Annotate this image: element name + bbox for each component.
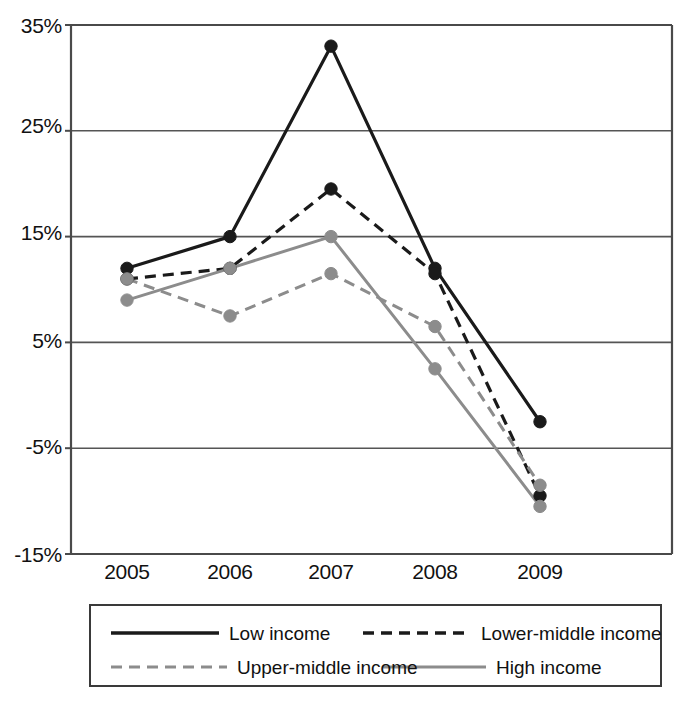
data-point-high-income-2009: [534, 500, 546, 512]
plot-area: [0, 0, 686, 600]
legend-label-high-income: High income: [496, 657, 602, 679]
data-point-low-income-2009: [534, 416, 546, 428]
data-point-upper-middle-income-2007: [325, 267, 337, 279]
data-point-high-income-2006: [224, 262, 236, 274]
data-point-high-income-2005: [121, 294, 133, 306]
data-point-high-income-2007: [325, 230, 337, 242]
data-point-upper-middle-income-2005: [121, 273, 133, 285]
legend-label-lower-middle-income: Lower-middle income: [481, 623, 662, 645]
data-point-lower-middle-income-2008: [429, 267, 441, 279]
legend-label-upper-middle-income: Upper-middle income: [237, 657, 418, 679]
data-point-lower-middle-income-2007: [325, 183, 337, 195]
data-point-markers: [121, 40, 546, 513]
data-point-low-income-2007: [325, 40, 337, 52]
data-point-high-income-2008: [429, 363, 441, 375]
series-line-upper-middle-income: [127, 274, 540, 486]
legend-label-low-income: Low income: [229, 623, 330, 645]
data-point-upper-middle-income-2008: [429, 320, 441, 332]
legend-box: Low income Lower-middle income Upper-mid…: [89, 604, 662, 687]
data-point-low-income-2006: [224, 230, 236, 242]
axis-frame: [65, 25, 672, 554]
data-point-upper-middle-income-2006: [224, 310, 236, 322]
data-point-upper-middle-income-2009: [534, 479, 546, 491]
chart-container: 35% 25% 15% 5% -5% -15% 2005 2006 2007 2…: [0, 0, 686, 709]
